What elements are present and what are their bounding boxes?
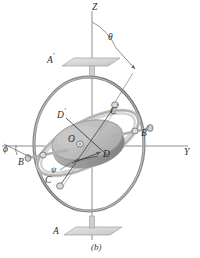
label-angle-theta: θ (108, 33, 113, 43)
label-bearing-a-bottom: A (53, 227, 59, 237)
prime-mark: ′ (64, 107, 66, 116)
base-plate-top (62, 58, 120, 78)
label-bearing-c: C (45, 176, 51, 186)
gyroscope-drawing (0, 0, 200, 258)
prime-mark: ′ (53, 52, 55, 61)
label-axis-z: Z (92, 3, 97, 13)
gyroscope-figure: Z Y θ ϕ ψ A′ A B B′ C C′ D D′ O (b) (0, 0, 200, 258)
base-plate-bottom (64, 216, 122, 235)
label-point-d-prime: D′ (57, 108, 66, 121)
prime-mark: ′ (116, 103, 118, 112)
label-point-d: D (103, 150, 110, 160)
label-bearing-b: B (18, 158, 24, 168)
label-origin-o: O (68, 135, 75, 145)
label-bearing-a-top: A′ (47, 53, 54, 66)
figure-caption: (b) (91, 243, 102, 252)
label-axis-y: Y (184, 148, 189, 158)
prime-mark: ′ (147, 125, 149, 134)
label-angle-psi: ψ (51, 165, 56, 174)
label-bearing-b-prime: B′ (141, 126, 148, 139)
rotor-hub (77, 141, 84, 147)
label-bearing-c-prime: C′ (110, 104, 118, 117)
label-angle-phi: ϕ (3, 145, 8, 155)
